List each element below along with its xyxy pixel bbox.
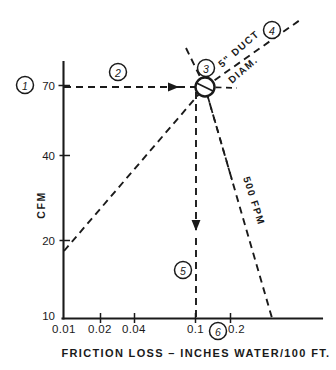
y-tick-label-10: 10: [42, 310, 55, 322]
y-tick-label-70: 70: [42, 80, 55, 92]
y-tick-label-40: 40: [42, 150, 55, 162]
step-badge-3: 3: [198, 60, 215, 77]
y-axis-title: CFM: [35, 191, 47, 219]
step-badge-1-label: 1: [22, 80, 28, 92]
step-badge-2-label: 2: [114, 67, 121, 79]
x-tick-label-02: 0.2: [228, 323, 245, 335]
x-axis-title: FRICTION LOSS – INCHES WATER/100 FT.: [61, 347, 330, 359]
step-badge-2: 2: [110, 64, 127, 81]
x-tick-label-001: 0.01: [52, 323, 76, 335]
y-tick-label-20: 20: [42, 235, 55, 247]
x-tick-label-004: 0.04: [122, 323, 146, 335]
x-tick-label-01: 0.1: [187, 323, 204, 335]
chart-canvas: 1 2 3 4 5 6 70 40 20 10 0.01 0.02 0.04: [0, 0, 336, 370]
step-badge-6: 6: [210, 323, 227, 340]
step-badge-3-label: 3: [203, 63, 209, 75]
duct-sizing-nomograph-figure: 1 2 3 4 5 6 70 40 20 10 0.01 0.02 0.04: [0, 0, 336, 370]
step-badge-4-label: 4: [269, 25, 275, 37]
step-badge-6-label: 6: [215, 326, 221, 338]
intersection-node: [196, 78, 215, 97]
step-badge-5: 5: [175, 262, 192, 279]
step-badge-4: 4: [264, 22, 281, 39]
x-tick-label-002: 0.02: [88, 323, 112, 335]
step-badge-5-label: 5: [180, 265, 186, 277]
step-badge-1: 1: [17, 77, 34, 94]
velocity-label: 500 FPM: [241, 175, 267, 226]
